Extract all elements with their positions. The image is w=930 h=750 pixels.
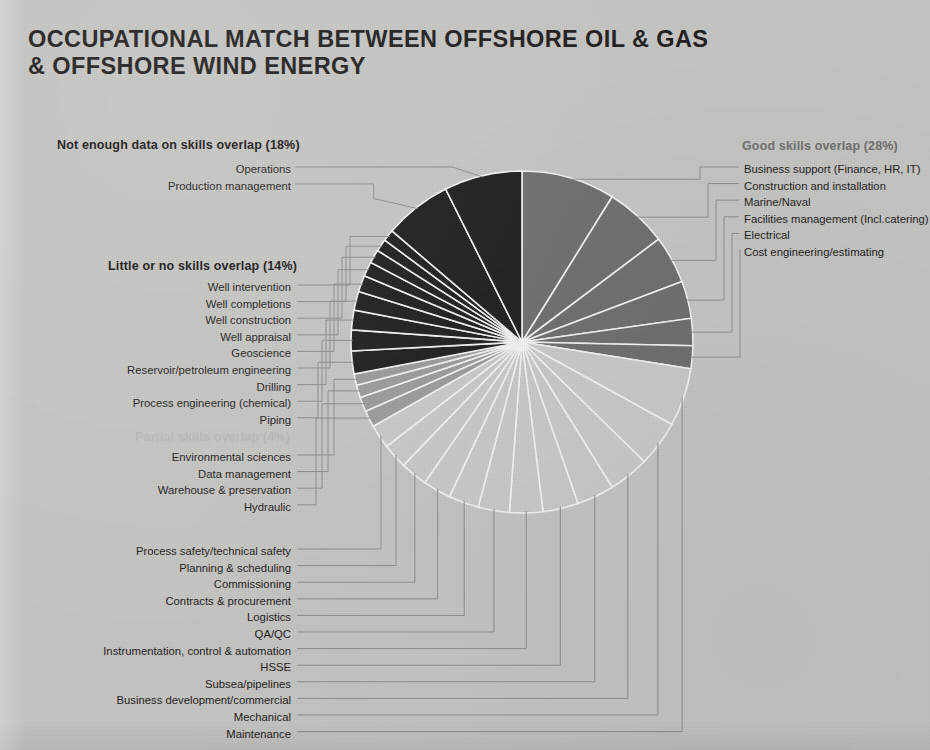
leader-line (297, 362, 354, 418)
leader-line (297, 340, 353, 401)
label-bottom-10: Mechanical (0, 709, 291, 726)
label-little-or-no-3: Well appraisal (0, 329, 291, 346)
label-bottom-4: Logistics (0, 609, 291, 626)
leader-line (297, 511, 526, 648)
page-title: OCCUPATIONAL MATCH BETWEEN OFFSHORE OIL … (28, 26, 688, 80)
label-bottom-1: Planning & scheduling (0, 560, 291, 577)
leader-line (670, 200, 739, 260)
title-line-1: OCCUPATIONAL MATCH BETWEEN OFFSHORE OIL … (28, 26, 688, 53)
leader-line (295, 184, 418, 209)
label-bottom-2: Commissioning (0, 576, 291, 593)
group-heading-good: Good skills overlap (28%) (742, 139, 898, 153)
label-little-or-no-8: Piping (0, 412, 291, 429)
label-good-2: Marine/Naval (744, 194, 930, 211)
label-bottom-9: Business development/commercial (0, 692, 291, 709)
label-bottom-5: QA/QC (0, 626, 291, 643)
label-good-0: Business support (Finance, HR, IT) (744, 161, 930, 178)
label-partial-0: Environmental sciences (0, 449, 291, 466)
label-partial-3: Hydraulic (0, 499, 291, 516)
label-bottom-6: Instrumentation, control & automation (0, 643, 291, 660)
label-bottom-3: Contracts & procurement (0, 593, 291, 610)
leader-line (297, 320, 354, 385)
leader-line (691, 233, 739, 332)
leader-line (297, 507, 560, 665)
label-good-1: Construction and installation (744, 178, 930, 195)
label-not-enough-data-1: Production management (0, 178, 291, 195)
group-heading-partial: Partial skills overlap (4%) (135, 430, 290, 444)
label-little-or-no-6: Drilling (0, 379, 291, 396)
label-list-good: Business support (Finance, HR, IT)Constr… (744, 161, 930, 261)
leader-line (297, 404, 364, 488)
label-little-or-no-1: Well completions (0, 296, 291, 313)
label-little-or-no-5: Reservoir/petroleum engineering (0, 362, 291, 379)
label-good-4: Electrical (744, 227, 930, 244)
label-little-or-no-2: Well construction (0, 312, 291, 329)
label-little-or-no-0: Well intervention (0, 279, 291, 296)
label-bottom-0: Process safety/technical safety (0, 543, 291, 560)
group-heading-not-enough-data: Not enough data on skills overlap (18%) (57, 138, 300, 152)
label-bottom-11: Maintenance (0, 726, 291, 743)
label-good-5: Cost engineering/estimating (744, 244, 930, 261)
label-list-not-enough-data: OperationsProduction management (0, 161, 291, 194)
leader-line (297, 391, 360, 472)
pie-slices (351, 171, 693, 513)
leader-line (295, 167, 483, 177)
leader-line (691, 250, 740, 357)
label-partial-2: Warehouse & preservation (0, 482, 291, 499)
group-heading-little-or-no: Little or no skills overlap (14%) (108, 259, 297, 273)
leader-line (297, 495, 595, 682)
label-bottom-7: HSSE (0, 659, 291, 676)
label-list-bottom: Process safety/technical safetyPlanning … (0, 543, 291, 742)
leader-line (686, 217, 739, 300)
label-good-3: Facilities management (Incl.catering) (744, 211, 930, 228)
label-not-enough-data-0: Operations (0, 161, 291, 178)
label-list-partial: Environmental sciencesData managementWar… (0, 449, 291, 515)
label-list-little-or-no: Well interventionWell completionsWell co… (0, 279, 291, 428)
title-line-2: & OFFSHORE WIND ENERGY (28, 53, 688, 80)
leader-line (297, 436, 381, 549)
label-bottom-8: Subsea/pipelines (0, 676, 291, 693)
leader-line (568, 167, 739, 179)
label-little-or-no-4: Geoscience (0, 345, 291, 362)
label-little-or-no-7: Process engineering (chemical) (0, 395, 291, 412)
label-partial-1: Data management (0, 466, 291, 483)
